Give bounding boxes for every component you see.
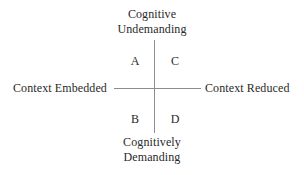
axis-label-top-line1: Cognitive (0, 7, 304, 22)
vertical-axis-line (154, 40, 155, 133)
quadrant-label-b: B (127, 112, 143, 126)
quadrant-label-c: C (167, 54, 183, 68)
axis-label-top-line2: Undemanding (0, 22, 304, 37)
axis-label-left: Context Embedded (13, 81, 107, 96)
axis-label-bottom-line2: Demanding (0, 150, 304, 165)
horizontal-axis-line (114, 88, 201, 89)
quadrant-label-a: A (127, 54, 143, 68)
axis-label-top: Cognitive Undemanding (0, 7, 304, 37)
axis-label-bottom: Cognitively Demanding (0, 135, 304, 165)
quadrant-diagram: Cognitive Undemanding Cognitively Demand… (0, 0, 304, 175)
axis-label-right: Context Reduced (205, 81, 289, 96)
quadrant-label-d: D (167, 112, 183, 126)
axis-label-bottom-line1: Cognitively (0, 135, 304, 150)
